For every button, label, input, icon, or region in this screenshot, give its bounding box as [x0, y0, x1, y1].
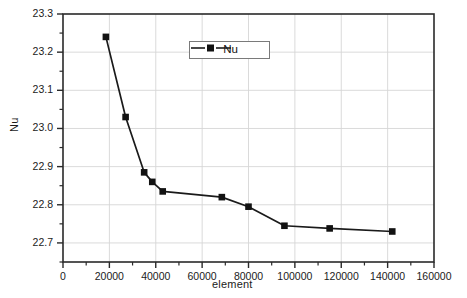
- data-point: [245, 203, 252, 210]
- data-point: [281, 222, 288, 229]
- data-point: [122, 114, 129, 121]
- y-tick-label: 23.3: [17, 7, 53, 19]
- y-tick-label: 22.7: [17, 236, 53, 248]
- data-point: [159, 188, 166, 195]
- chart-figure: Nu element Nu 22.722.822.923.023.123.223…: [0, 0, 467, 298]
- legend-line-marker-icon: [190, 42, 234, 54]
- legend: Nu: [189, 41, 270, 59]
- y-tick-label: 22.8: [17, 198, 53, 210]
- x-tick-label: 160000: [404, 270, 464, 282]
- data-point: [326, 225, 333, 232]
- y-tick-label: 23.2: [17, 45, 53, 57]
- data-point: [149, 179, 156, 186]
- data-point: [219, 194, 226, 201]
- legend-entry-nu: Nu: [190, 42, 269, 58]
- y-tick-label: 23.1: [17, 83, 53, 95]
- y-tick-label: 23.0: [17, 121, 53, 133]
- data-point: [141, 169, 148, 176]
- data-point: [103, 34, 110, 41]
- y-tick-label: 22.9: [17, 160, 53, 172]
- data-point: [389, 228, 396, 235]
